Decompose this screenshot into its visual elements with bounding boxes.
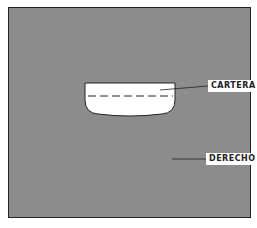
cartera-pan-shape [85, 83, 175, 116]
derecho-label: DERECHO [206, 153, 257, 165]
cartera-label: CARTERA [208, 80, 257, 92]
diagram-drawing [0, 0, 257, 228]
